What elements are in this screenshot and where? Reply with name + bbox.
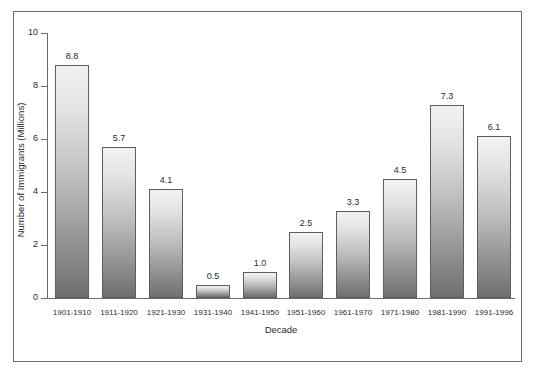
y-axis-tick-mark <box>41 192 47 193</box>
x-axis-category-label: 1901-1910 <box>46 308 98 317</box>
bar[interactable] <box>55 65 89 298</box>
bar[interactable] <box>383 179 417 298</box>
bar-value-label: 0.5 <box>188 272 238 281</box>
y-axis-tick-label: 0 <box>14 293 38 302</box>
x-axis-category-label: 1921-1930 <box>140 308 192 317</box>
x-axis-category-label: 1951-1960 <box>280 308 332 317</box>
x-axis-title: Decade <box>47 324 515 335</box>
x-axis-category-label: 1991-1996 <box>468 308 520 317</box>
x-axis-category-label: 1931-1940 <box>187 308 239 317</box>
x-axis-category-label: 1981-1990 <box>421 308 473 317</box>
bar[interactable] <box>289 232 323 298</box>
bar[interactable] <box>477 136 511 298</box>
y-axis-tick: 10 <box>0 33 47 34</box>
bar-value-label: 7.3 <box>422 92 472 101</box>
bar[interactable] <box>102 147 136 298</box>
bar-value-label: 6.1 <box>469 123 519 132</box>
y-axis-tick-mark <box>41 298 47 299</box>
bar[interactable] <box>196 285 230 298</box>
bar-value-label: 4.5 <box>375 166 425 175</box>
plot-area: 0246810 Number of Immigrants (Millions) … <box>0 0 535 374</box>
y-axis-tick-mark <box>41 139 47 140</box>
bar-value-label: 3.3 <box>328 198 378 207</box>
y-axis-tick-label: 10 <box>14 28 38 37</box>
bar-value-label: 2.5 <box>281 219 331 228</box>
bar[interactable] <box>336 211 370 298</box>
bar[interactable] <box>149 189 183 298</box>
chart-figure: 0246810 Number of Immigrants (Millions) … <box>0 0 535 374</box>
y-axis-tick-mark <box>41 245 47 246</box>
bar-value-label: 8.8 <box>47 52 97 61</box>
bar-value-label: 5.7 <box>94 134 144 143</box>
y-axis-line <box>47 33 48 299</box>
x-axis-category-label: 1941-1950 <box>234 308 286 317</box>
x-axis-category-label: 1971-1980 <box>374 308 426 317</box>
bar-value-label: 4.1 <box>141 176 191 185</box>
bar[interactable] <box>243 272 277 299</box>
x-axis-category-label: 1911-1920 <box>93 308 145 317</box>
x-axis-category-label: 1961-1970 <box>327 308 379 317</box>
y-axis-tick: 0 <box>0 298 47 299</box>
y-axis-title: Number of Immigrants (Millions) <box>16 75 26 265</box>
y-axis-tick-mark <box>41 86 47 87</box>
bar[interactable] <box>430 105 464 298</box>
bar-value-label: 1.0 <box>235 259 285 268</box>
x-axis-line <box>47 298 515 299</box>
y-axis-tick-mark <box>41 33 47 34</box>
